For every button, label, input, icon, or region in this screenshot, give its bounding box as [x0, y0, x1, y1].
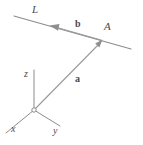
vector-line-diagram: L b A a z x y: [0, 0, 143, 145]
axis-y-label: y: [53, 126, 57, 136]
axis-z-label: z: [24, 69, 28, 79]
vector-a-shaft: [34, 43, 100, 110]
vector-b-label: b: [75, 19, 81, 29]
vector-a-label: a: [75, 74, 80, 84]
origin-point: [32, 108, 36, 112]
line-L-label: L: [32, 4, 38, 15]
point-A-label: A: [104, 21, 111, 32]
vector-b-arrowhead: [50, 24, 60, 31]
axis-y-line: [34, 110, 60, 126]
axis-x-label: x: [11, 124, 15, 134]
diagram-canvas: [0, 0, 143, 145]
